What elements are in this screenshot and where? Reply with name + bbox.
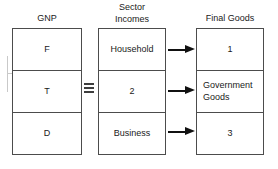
arrow-household-to-final-1: [168, 45, 195, 54]
column-sector-incomes: Household 2 Business: [98, 28, 166, 155]
column-final-goods: 1 Government Goods 3: [196, 28, 264, 155]
arrow-sector2-to-government-goods: [168, 86, 195, 95]
cell-final-3: 3: [197, 112, 263, 154]
diagram-canvas: GNP Sector Incomes Final Goods F T D Hou…: [0, 0, 278, 169]
cell-sector-business: Business: [99, 112, 165, 154]
cell-gnp-t: T: [13, 70, 81, 112]
column-gnp: F T D: [12, 28, 82, 155]
cell-final-1: 1: [197, 29, 263, 70]
cell-final-government-goods: Government Goods: [197, 70, 263, 112]
cell-sector-household: Household: [99, 29, 165, 70]
cell-gnp-d: D: [13, 112, 81, 154]
cell-gnp-f: F: [13, 29, 81, 70]
column-header-sector-incomes: Sector Incomes: [98, 2, 166, 25]
arrow-head-icon: [185, 127, 195, 135]
column-header-final-goods: Final Goods: [196, 13, 264, 25]
arrow-head-icon: [185, 45, 195, 53]
identity-equivalence-icon: [84, 83, 94, 94]
scan-artifact-line: [7, 56, 8, 92]
cell-sector-2: 2: [99, 70, 165, 112]
column-header-gnp: GNP: [12, 13, 82, 25]
arrow-business-to-final-3: [168, 127, 195, 136]
arrow-head-icon: [185, 86, 195, 94]
